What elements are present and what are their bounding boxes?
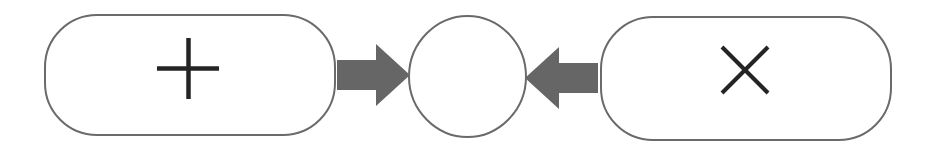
arrow-cross-to-empty: [525, 47, 598, 109]
cross-node-shape[interactable]: [601, 17, 891, 140]
node-cross[interactable]: [601, 17, 891, 140]
diagram-svg: [0, 0, 926, 149]
node-plus[interactable]: [45, 15, 335, 135]
arrow-plus-to-empty: [337, 44, 410, 106]
arrow-left-shape: [525, 47, 598, 109]
node-empty[interactable]: [409, 16, 526, 137]
arrow-right-shape: [337, 44, 410, 106]
diagram-canvas: + × Plus and Cross nodes converging on e…: [0, 0, 926, 149]
empty-node-shape[interactable]: [409, 16, 526, 137]
